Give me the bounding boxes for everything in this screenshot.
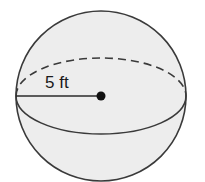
radius-label: 5 ft [45,73,69,92]
sphere-diagram: 5 ft [0,0,205,182]
center-point [97,92,106,101]
sphere-figure: 5 ft [0,0,205,182]
